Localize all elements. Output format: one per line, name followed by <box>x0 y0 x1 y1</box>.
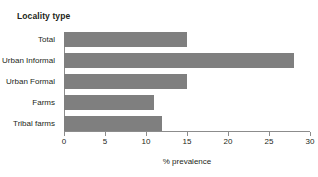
category-label-column: TotalUrban InformalUrban FormalFarmsTrib… <box>0 32 59 131</box>
bar <box>64 32 187 47</box>
bar-row <box>64 74 310 89</box>
category-label: Urban Formal <box>6 77 55 86</box>
tick-mark <box>146 132 147 136</box>
bar-row <box>64 95 310 110</box>
tick-label: 15 <box>183 137 192 146</box>
tick-mark <box>228 132 229 136</box>
bar-chart-figure: Locality type TotalUrban InformalUrban F… <box>0 0 318 177</box>
tick-label: 25 <box>265 137 274 146</box>
plot-area <box>64 32 310 131</box>
category-label-row: Urban Formal <box>0 74 59 89</box>
tick-mark <box>105 132 106 136</box>
bar-row <box>64 32 310 47</box>
bar <box>64 95 154 110</box>
category-label: Tribal farms <box>13 119 55 128</box>
category-label-row: Farms <box>0 95 59 110</box>
x-axis-label: % prevalence <box>64 157 310 166</box>
category-label-row: Urban Informal <box>0 53 59 68</box>
tick-label: 20 <box>224 137 233 146</box>
tick-label: 10 <box>142 137 151 146</box>
bar-row <box>64 53 310 68</box>
bar <box>64 74 187 89</box>
tick-mark <box>310 132 311 136</box>
x-axis-tick-marks <box>64 132 310 136</box>
bar <box>64 116 162 131</box>
tick-mark <box>269 132 270 136</box>
tick-mark <box>187 132 188 136</box>
tick-mark <box>64 132 65 136</box>
bar-group <box>64 32 310 131</box>
category-label-row: Total <box>0 32 59 47</box>
tick-label: 0 <box>62 137 66 146</box>
tick-label: 30 <box>306 137 315 146</box>
bar-row <box>64 116 310 131</box>
category-label: Urban Informal <box>2 56 55 65</box>
category-label-row: Tribal farms <box>0 116 59 131</box>
category-label: Farms <box>32 98 55 107</box>
tick-label: 5 <box>103 137 107 146</box>
plot-wrapper: TotalUrban InformalUrban FormalFarmsTrib… <box>0 0 318 177</box>
category-label: Total <box>38 35 55 44</box>
bar <box>64 53 294 68</box>
x-axis-tick-labels: 051015202530 <box>64 137 310 149</box>
